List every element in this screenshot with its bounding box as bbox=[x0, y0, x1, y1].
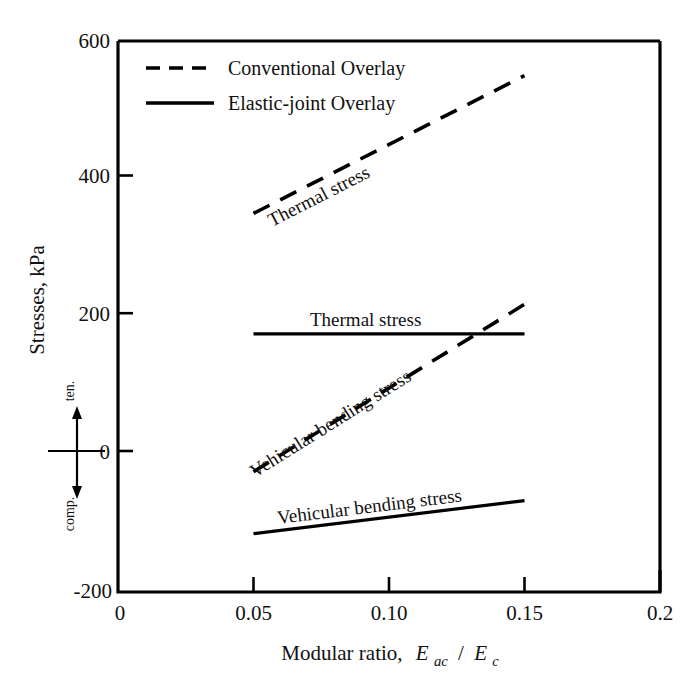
x-axis-title-var2: E bbox=[473, 641, 487, 665]
stress-vs-modular-ratio-chart: 600 400 200 0 -200 0 0.05 0.10 0.15 0.2 … bbox=[0, 0, 700, 690]
y-tick-label-400: 400 bbox=[79, 164, 111, 188]
y-tick-label-600: 600 bbox=[79, 29, 111, 53]
x-axis-title-sub1: ac bbox=[434, 653, 448, 669]
chart-figure: 600 400 200 0 -200 0 0.05 0.10 0.15 0.2 … bbox=[0, 0, 700, 690]
x-tick-label-005: 0.05 bbox=[235, 601, 272, 625]
compression-label: comp. bbox=[62, 497, 77, 532]
curve-label-thermal-stress-elastic-joint: Thermal stress bbox=[310, 309, 421, 330]
tension-label: ten. bbox=[62, 381, 77, 402]
x-axis-title-var1: E bbox=[415, 641, 429, 665]
legend-label-conventional-overlay: Conventional Overlay bbox=[228, 57, 405, 80]
x-axis-title-sub2: c bbox=[492, 653, 499, 669]
x-axis-title-main: Modular ratio, bbox=[281, 641, 402, 665]
x-tick-label-015: 0.15 bbox=[506, 601, 543, 625]
x-tick-label-02: 0.2 bbox=[647, 601, 673, 625]
legend-label-elastic-joint-overlay: Elastic-joint Overlay bbox=[228, 92, 395, 115]
x-axis-title-slash: / bbox=[458, 641, 464, 665]
y-tick-label-200: 200 bbox=[79, 302, 111, 326]
x-tick-label-0: 0 bbox=[115, 601, 126, 625]
y-axis-title: Stresses, kPa bbox=[25, 244, 49, 354]
y-axis-title-group: Stresses, kPa bbox=[25, 244, 49, 354]
x-tick-label-010: 0.10 bbox=[371, 601, 408, 625]
y-tick-label-minus-200: -200 bbox=[74, 579, 113, 603]
